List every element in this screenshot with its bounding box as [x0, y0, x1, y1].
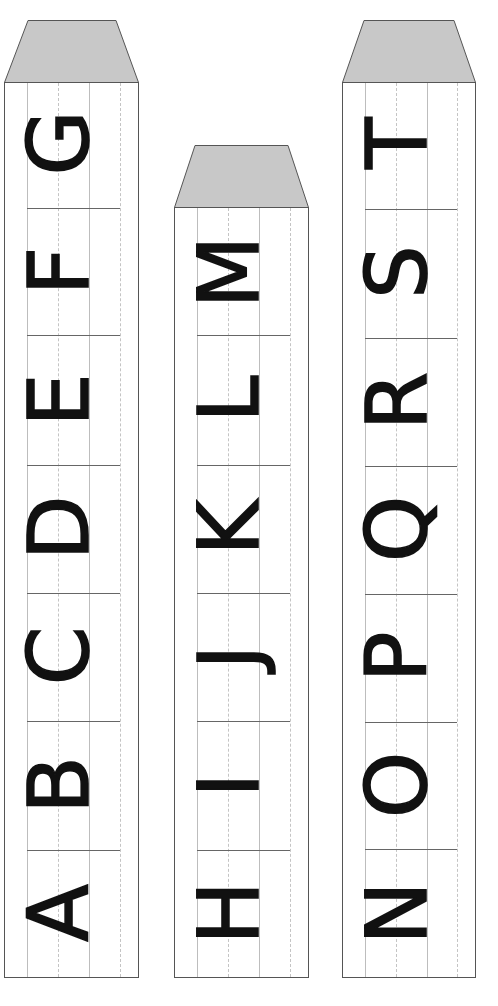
letter-k: K — [187, 500, 271, 555]
letter-i: I — [187, 773, 271, 798]
letter-t: T — [355, 117, 439, 168]
cell-divider — [27, 465, 120, 466]
letter-n: N — [355, 882, 439, 945]
letter-j: J — [187, 645, 271, 670]
guide-line-dashed — [120, 83, 121, 977]
tower-roof — [342, 20, 476, 83]
cell-divider — [365, 209, 457, 210]
letter-r: R — [355, 372, 439, 430]
cell-divider — [197, 465, 290, 466]
letter-m: M — [187, 236, 271, 308]
letter-h: H — [187, 881, 271, 944]
tower-body: H I J K L M — [174, 207, 309, 978]
cell-divider — [27, 721, 120, 722]
tower-body: A B C D E F G — [4, 82, 139, 978]
cell-divider — [197, 721, 290, 722]
letter-f: F — [17, 247, 101, 295]
tower-roof — [174, 145, 309, 208]
letter-p: P — [355, 632, 439, 683]
letter-c: C — [17, 627, 101, 686]
cell-divider — [27, 850, 120, 851]
letter-tower-3: N O P Q R S T — [342, 20, 476, 978]
cell-divider — [197, 850, 290, 851]
letter-tower-1: A B C D E F G — [4, 20, 139, 978]
letter-b: B — [17, 756, 101, 814]
letter-s: S — [355, 245, 439, 298]
cell-divider — [365, 849, 457, 850]
cell-divider — [27, 208, 120, 209]
cell-divider — [365, 466, 457, 467]
letter-a: A — [17, 884, 101, 941]
cell-divider — [197, 593, 290, 594]
guide-line-dashed — [290, 208, 291, 977]
cell-divider — [365, 338, 457, 339]
cell-divider — [27, 593, 120, 594]
cell-divider — [365, 594, 457, 595]
letter-q: Q — [355, 496, 439, 562]
cell-divider — [197, 335, 290, 336]
letter-l: L — [187, 376, 271, 423]
letter-o: O — [355, 752, 439, 818]
letter-d: D — [17, 496, 101, 561]
tower-roof — [4, 20, 139, 83]
guide-line-dashed — [457, 83, 458, 977]
letter-tower-2: H I J K L M — [174, 145, 309, 978]
letter-g: G — [17, 110, 101, 175]
cell-divider — [27, 335, 120, 336]
cell-divider — [365, 722, 457, 723]
letter-e: E — [17, 373, 101, 426]
tower-body: N O P Q R S T — [342, 82, 476, 978]
